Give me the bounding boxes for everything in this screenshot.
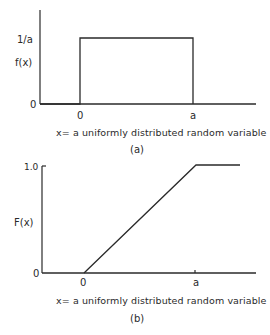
panel-b-sublabel: (b) (130, 314, 144, 324)
panel-a-x-tick-zero: 0 (77, 111, 83, 121)
panel-a-plot (40, 10, 256, 104)
panel-b-x-tick-zero: 0 (80, 278, 86, 288)
panel-a-y-label: f(x) (15, 58, 32, 68)
panel-b-y-tick-zero: 0 (33, 269, 39, 279)
panel-a-pdf-curve (40, 38, 193, 104)
panel-a-x-caption: x= a uniformly distributed random variab… (56, 128, 267, 138)
panel-b-plot (42, 165, 256, 273)
panel-a-y-tick-zero: 0 (30, 100, 36, 110)
panel-b-y-tick-top: 1.0 (24, 163, 38, 172)
panel-b-y-label: F(x) (14, 218, 33, 228)
panel-a-y-tick-top: 1/a (17, 35, 33, 45)
panel-b-x-caption: x= a uniformly distributed random variab… (56, 296, 267, 306)
diagram-canvas (0, 0, 270, 335)
panel-b-x-tick-a: a (193, 278, 199, 288)
panel-b-cdf-curve (84, 165, 240, 273)
panel-a-x-tick-a: a (190, 111, 196, 121)
panel-a-sublabel: (a) (130, 145, 144, 155)
